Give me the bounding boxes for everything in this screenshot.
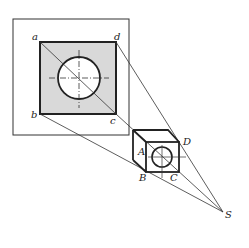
label-c: c <box>110 115 116 126</box>
label-A: A <box>137 146 145 157</box>
label-D: D <box>182 136 191 147</box>
cube-edge <box>133 130 146 142</box>
label-B: B <box>138 172 146 183</box>
cube-bottom-edge <box>133 160 146 172</box>
label-d: d <box>114 31 120 42</box>
label-a: a <box>32 31 38 42</box>
label-S: S <box>225 209 232 220</box>
label-b: b <box>31 109 37 120</box>
ray-d-S <box>116 42 223 212</box>
projection-diagram: a d b c A D B C S <box>0 0 249 248</box>
label-C: C <box>170 172 178 183</box>
